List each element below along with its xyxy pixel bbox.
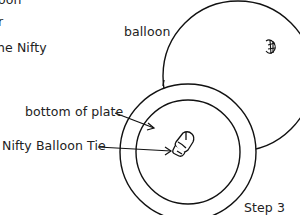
instruction-text-line2: r <box>0 14 3 29</box>
nifty-balloon-tie-label: Nifty Balloon Tie <box>2 138 106 153</box>
balloon-label: balloon <box>124 24 170 39</box>
instruction-text-line3: he Nifty <box>0 40 47 55</box>
instruction-text-line1: oon <box>0 0 22 7</box>
bottom-of-plate-label: bottom of plate <box>25 104 123 119</box>
step-label: Step 3 <box>244 200 285 215</box>
step-3-diagram: oon r he Nifty balloon bottom of plate N… <box>0 0 300 215</box>
